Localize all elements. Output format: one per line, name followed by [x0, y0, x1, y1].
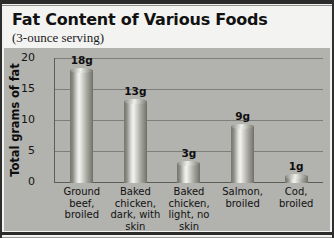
x-axis-category-label: Cod,broiled [268, 186, 324, 209]
chart-plot-area: Total grams of fat 05101520 18g13g3g9g1g… [4, 48, 330, 231]
bottom-rule-hairline [2, 237, 332, 238]
bar[interactable] [285, 176, 308, 183]
x-axis-label-line: dark, with [107, 209, 163, 221]
chart-subtitle: (3-ounce serving) [12, 30, 330, 45]
bar-slot: 1g [269, 58, 323, 183]
bar-slot: 18g [55, 58, 109, 183]
x-axis-labels: Groundbeef,broiledBakedchicken,dark, wit… [55, 186, 323, 238]
x-axis-label-line: light, no [161, 209, 217, 221]
bar-value-label: 9g [217, 110, 269, 122]
x-axis-label-line: chicken, [161, 198, 217, 210]
bar[interactable] [124, 101, 147, 183]
bar[interactable] [70, 70, 93, 183]
y-axis-tick-label: 10 [11, 113, 35, 126]
bar-cap [124, 99, 147, 104]
x-axis-label-line: skin [161, 221, 217, 233]
bar-slot: 13g [109, 58, 163, 183]
x-axis-category-label: Bakedchicken,light, noskin [161, 186, 217, 232]
bar-cap [285, 174, 308, 179]
chart-title: Fat Content of Various Foods [12, 10, 330, 29]
y-axis-tick-label: 15 [11, 82, 35, 95]
x-axis-label-line: chicken, [107, 198, 163, 210]
bottom-rule [2, 232, 332, 235]
y-axis-tick-label: 20 [11, 51, 35, 64]
x-axis-label-line: Ground [54, 186, 110, 198]
bar-value-label: 1g [270, 160, 322, 172]
x-axis-label-line: Salmon, [215, 186, 271, 198]
bar-value-label: 13g [109, 85, 161, 97]
bar-series: 18g13g3g9g1g [55, 58, 323, 183]
chart-header: Fat Content of Various Foods (3-ounce se… [4, 6, 330, 48]
bar-cap [177, 161, 200, 166]
x-axis-label-line: broiled [54, 209, 110, 221]
x-axis-label-line: beef, [54, 198, 110, 210]
x-axis-label-line: Baked [107, 186, 163, 198]
x-axis-label-line: Baked [161, 186, 217, 198]
bar-cap [231, 124, 254, 129]
chart-figure: Fat Content of Various Foods (3-ounce se… [0, 0, 334, 238]
bar-value-label: 3g [163, 147, 215, 159]
bar-cap [70, 68, 93, 73]
bar-slot: 9g [216, 58, 270, 183]
x-axis-category-label: Salmon,broiled [215, 186, 271, 209]
x-axis-label-line: broiled [215, 198, 271, 210]
y-axis-tick-label: 5 [11, 144, 35, 157]
bar[interactable] [231, 126, 254, 183]
bar-slot: 3g [162, 58, 216, 183]
x-axis-label-line: Cod, [268, 186, 324, 198]
bar[interactable] [177, 163, 200, 183]
x-axis-label-line: skin [107, 221, 163, 233]
x-axis-label-line: broiled [268, 198, 324, 210]
bar-value-label: 18g [56, 54, 108, 66]
x-axis-category-label: Bakedchicken,dark, withskin [107, 186, 163, 232]
y-axis-tick-label: 0 [11, 175, 35, 188]
x-axis-category-label: Groundbeef,broiled [54, 186, 110, 221]
top-rule [2, 0, 332, 4]
